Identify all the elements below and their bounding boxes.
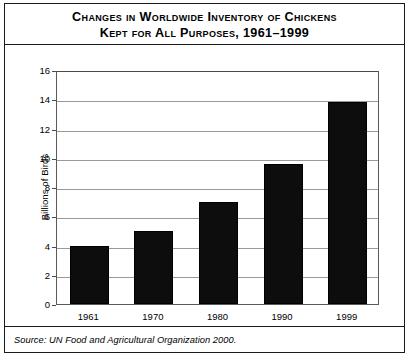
bar-1980: [199, 202, 238, 304]
x-axis-tick-label: 1999: [317, 311, 377, 322]
y-axis-tick-label: 0: [26, 300, 50, 310]
chart-title-block: Changes in Worldwide Inventory of Chicke…: [5, 4, 404, 45]
x-axis-tick-label: 1961: [58, 311, 118, 322]
y-axis-tick-label: 14: [26, 95, 50, 105]
plot-frame: [56, 71, 379, 305]
chart-plot-area: Billions of Birds 0246810121416 19611970…: [5, 45, 404, 328]
y-axis-tick-label: 10: [26, 154, 50, 164]
y-axis-tick-label: 2: [26, 271, 50, 281]
y-axis-tick-label: 12: [26, 125, 50, 135]
bar-1961: [70, 246, 109, 305]
x-axis-tick-label: 1990: [252, 311, 312, 322]
y-axis-tick-mark: [52, 305, 56, 306]
bar-1990: [264, 164, 303, 304]
y-axis-tick-label: 6: [26, 212, 50, 222]
chart-figure: Changes in Worldwide Inventory of Chicke…: [4, 3, 405, 353]
source-note: Source: UN Food and Agricultural Organiz…: [5, 335, 236, 345]
x-axis-tick-label: 1970: [123, 311, 183, 322]
source-block: Source: UN Food and Agricultural Organiz…: [5, 326, 404, 352]
x-axis-tick-label: 1980: [188, 311, 248, 322]
chart-title-line-2: Kept for All Purposes, 1961–1999: [100, 25, 309, 41]
bar-series: [57, 72, 378, 304]
bar-1999: [328, 102, 367, 304]
y-axis-tick-label: 8: [26, 183, 50, 193]
y-axis-tick-label: 4: [26, 242, 50, 252]
bar-1970: [134, 231, 173, 304]
chart-title-line-1: Changes in Worldwide Inventory of Chicke…: [72, 9, 337, 25]
y-axis-tick-label: 16: [26, 66, 50, 76]
